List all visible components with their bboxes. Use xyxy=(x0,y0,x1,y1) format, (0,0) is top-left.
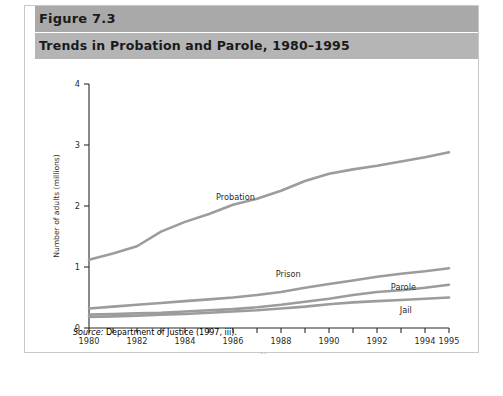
x-tick-label: 1986 xyxy=(223,336,244,346)
x-tick-label: 1995 xyxy=(439,336,460,346)
series-label-prison: Prison xyxy=(276,269,301,279)
y-axis-title: Number of adults (millions) xyxy=(52,154,61,258)
series-label-jail: Jail xyxy=(399,305,412,315)
y-tick-label: 2 xyxy=(75,201,80,211)
y-tick-label: 3 xyxy=(75,140,80,150)
y-tick-label: 4 xyxy=(75,79,80,89)
x-tick-label: 1990 xyxy=(319,336,340,346)
source-note: Source: Department of Justice (1997, iii… xyxy=(73,328,237,337)
x-tick-label: 1984 xyxy=(175,336,196,346)
chart-plot-area: 0123419801982198419861988199019921994199… xyxy=(25,60,478,354)
series-label-parole: Parole xyxy=(391,282,416,292)
x-tick-label: 1988 xyxy=(271,336,292,346)
x-tick-label: 1994 xyxy=(415,336,436,346)
series-label-probation: Probation xyxy=(216,192,255,202)
series-line-probation xyxy=(89,152,449,259)
x-tick-label: 1982 xyxy=(127,336,148,346)
source-prefix: Source: xyxy=(73,328,103,337)
axis-names-layer: YearNumber of adults (millions) xyxy=(52,154,278,354)
series-layer xyxy=(89,152,449,317)
header-left-notch xyxy=(25,6,35,59)
source-citation: Department of Justice (1997, iii). xyxy=(103,328,236,337)
line-chart: 0123419801982198419861988199019921994199… xyxy=(25,60,478,354)
y-tick-label: 1 xyxy=(75,262,80,272)
x-tick-label: 1980 xyxy=(79,336,100,346)
x-tick-label: 1992 xyxy=(367,336,388,346)
figure-container: Figure 7.3 Trends in Probation and Parol… xyxy=(24,5,479,353)
figure-title: Trends in Probation and Parole, 1980–199… xyxy=(39,38,350,53)
x-axis-title: Year xyxy=(260,352,278,354)
figure-number-label: Figure 7.3 xyxy=(39,11,116,26)
